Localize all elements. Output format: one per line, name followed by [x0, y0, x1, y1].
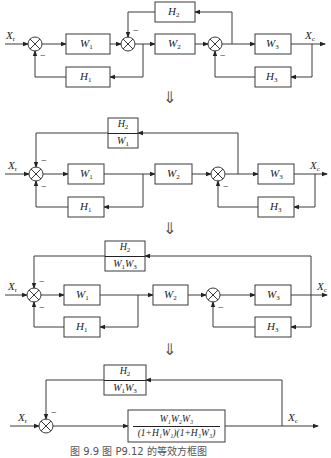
label-h1: H1: [76, 321, 87, 334]
label-w3: W3: [270, 168, 283, 181]
label-h2-over-w1w3: H2 W1W3: [104, 365, 146, 395]
minus-sign: −: [41, 182, 47, 192]
minus-sign: −: [51, 408, 57, 418]
input-label-xr: Xr: [6, 30, 15, 43]
label-w3: W3: [266, 38, 279, 51]
transform-arrow-icon: ⇓: [163, 342, 176, 358]
minus-sign: −: [223, 182, 229, 192]
output-label-xc: Xc: [305, 30, 315, 43]
minus-sign: −: [41, 156, 47, 166]
minus-sign: −: [218, 303, 224, 313]
output-label-xc: Xc: [317, 281, 327, 294]
label-w2: W2: [168, 38, 181, 51]
transform-arrow-icon: ⇓: [163, 90, 176, 106]
label-w2: W2: [164, 289, 177, 302]
minus-sign: −: [39, 303, 45, 313]
label-h3: H3: [266, 71, 277, 84]
minus-sign: −: [133, 26, 139, 36]
minus-sign: −: [40, 51, 46, 61]
output-label-xc: Xc: [288, 412, 298, 425]
input-label-xr: Xr: [18, 412, 27, 425]
input-label-xr: Xr: [8, 281, 17, 294]
output-label-xc: Xc: [310, 160, 320, 173]
minus-sign: −: [39, 277, 45, 287]
label-h1: H1: [80, 71, 91, 84]
transform-arrow-icon: ⇓: [163, 221, 176, 237]
label-h3: H3: [270, 201, 281, 214]
label-w3: W3: [267, 289, 280, 302]
figure-caption: 图 9.9 图 P9.12 的等效方框图: [70, 443, 207, 458]
minus-sign: −: [220, 51, 226, 61]
label-h2: H2: [168, 6, 179, 19]
label-h1: H1: [80, 201, 91, 214]
label-w2: W2: [167, 168, 180, 181]
label-h3: H3: [267, 321, 278, 334]
input-label-xr: Xr: [8, 160, 17, 173]
label-h2-over-w1w3: H2 W1W3: [105, 241, 145, 271]
label-w1: W1: [76, 289, 89, 302]
label-h2-over-w1: H2 W1: [108, 118, 138, 148]
label-forward-transfer-function: W₁W₂W₃ (1+H₁W₁)(1+H₃W₃): [128, 410, 225, 442]
label-w1: W1: [80, 168, 93, 181]
label-w1: W1: [80, 38, 93, 51]
